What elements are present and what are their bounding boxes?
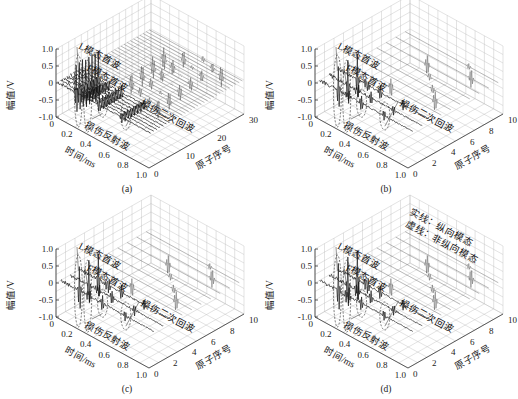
time-tick-label: 0.2 xyxy=(320,329,331,339)
time-tick-label: 0.2 xyxy=(61,129,72,139)
time-tick-label: 0.2 xyxy=(61,329,72,339)
z-tick-label: -0.5 xyxy=(298,95,313,105)
panel-caption: (d) xyxy=(380,384,391,395)
plot-b: 1.00.50-0.5-1.000.20.40.60.81.00246810幅值… xyxy=(259,0,518,199)
element-tick-label: 4 xyxy=(192,347,197,357)
element-axis-label: 原子序号 xyxy=(194,142,234,172)
element-tick-label: 30 xyxy=(249,115,259,125)
element-tick-label: 8 xyxy=(230,326,235,336)
z-tick-label: 0 xyxy=(308,278,313,288)
annotation-f-mode: F模态首波 xyxy=(344,262,389,293)
z-tick-label: -0.5 xyxy=(39,95,54,105)
time-tick-label: 0.4 xyxy=(80,339,92,349)
element-tick-label: 6 xyxy=(470,337,475,347)
z-tick-label: 0.5 xyxy=(301,261,313,271)
z-axis-label: 幅值/V xyxy=(5,80,16,110)
time-tick-label: 0.4 xyxy=(339,339,351,349)
z-axis-label: 幅值/V xyxy=(264,280,275,310)
time-tick-label: 0.2 xyxy=(320,129,331,139)
annotation-damage-echo: 损伤二次回波 xyxy=(139,297,197,335)
element-tick-label: 10 xyxy=(508,115,518,125)
time-tick-label: 0.6 xyxy=(99,350,111,360)
element-tick-label: 2 xyxy=(432,158,437,168)
element-tick-label: 2 xyxy=(173,358,178,368)
element-tick-label: 8 xyxy=(489,126,494,136)
z-tick-label: 1.0 xyxy=(42,44,54,54)
panel-c: 1.00.50-0.5-1.000.20.40.60.81.00246810幅值… xyxy=(0,200,259,399)
z-tick-label: 0.5 xyxy=(42,61,54,71)
z-tick-label: 1.0 xyxy=(301,244,313,254)
element-tick-label: 0 xyxy=(154,169,159,179)
plot-d: 1.00.50-0.5-1.000.20.40.60.81.00246810幅值… xyxy=(259,200,518,399)
time-tick-label: 0.8 xyxy=(376,160,388,170)
element-tick-label: 10 xyxy=(186,151,196,161)
element-axis-label: 原子序号 xyxy=(453,342,493,372)
time-tick-label: 0.6 xyxy=(358,150,370,160)
annotation-damage-echo: 损伤二次回波 xyxy=(139,97,197,135)
element-tick-label: 10 xyxy=(249,315,259,325)
plot-c: 1.00.50-0.5-1.000.20.40.60.81.00246810幅值… xyxy=(0,200,259,399)
z-tick-label: 1.0 xyxy=(301,44,313,54)
element-tick-label: 4 xyxy=(451,147,456,157)
z-tick-label: 0 xyxy=(49,78,54,88)
element-tick-label: 0 xyxy=(154,369,159,379)
time-tick-label: 0.8 xyxy=(117,160,129,170)
element-tick-label: 0 xyxy=(413,169,418,179)
element-axis-label: 原子序号 xyxy=(194,342,234,372)
time-tick-label: 1.0 xyxy=(395,370,407,380)
annotation-damage-echo: 损伤二次回波 xyxy=(398,97,456,135)
z-axis-label: 幅值/V xyxy=(5,280,16,310)
time-tick-label: 0.4 xyxy=(80,139,92,149)
element-axis-label: 原子序号 xyxy=(453,142,493,172)
time-tick-label: 0 xyxy=(50,319,55,329)
element-tick-label: 2 xyxy=(432,358,437,368)
z-tick-label: 0.5 xyxy=(42,261,54,271)
time-tick-label: 0.6 xyxy=(99,150,111,160)
element-tick-label: 0 xyxy=(413,369,418,379)
element-tick-label: 10 xyxy=(508,315,518,325)
z-tick-label: 1.0 xyxy=(42,244,54,254)
time-tick-label: 0 xyxy=(309,319,314,329)
element-tick-label: 6 xyxy=(211,337,216,347)
time-tick-label: 0 xyxy=(50,119,55,129)
plot-a: 1.00.50-0.5-1.000.20.40.60.81.00102030幅值… xyxy=(0,0,259,199)
panel-d: 1.00.50-0.5-1.000.20.40.60.81.00246810幅值… xyxy=(259,200,518,399)
element-tick-label: 4 xyxy=(451,347,456,357)
z-tick-label: -0.5 xyxy=(298,295,313,305)
element-tick-label: 20 xyxy=(217,133,227,143)
time-tick-label: 1.0 xyxy=(395,170,407,180)
time-tick-label: 0.8 xyxy=(117,360,129,370)
panel-b: 1.00.50-0.5-1.000.20.40.60.81.00246810幅值… xyxy=(259,0,518,199)
time-tick-label: 0.6 xyxy=(358,350,370,360)
panel-a: 1.00.50-0.5-1.000.20.40.60.81.00102030幅值… xyxy=(0,0,259,199)
z-tick-label: 0.5 xyxy=(301,61,313,71)
time-tick-label: 0.4 xyxy=(339,139,351,149)
annotation-damage-echo: 损伤二次回波 xyxy=(398,297,456,335)
z-axis-label: 幅值/V xyxy=(264,80,275,110)
time-tick-label: 1.0 xyxy=(136,370,148,380)
time-tick-label: 0 xyxy=(309,119,314,129)
annotation-f-mode: F模态首波 xyxy=(344,62,389,93)
z-tick-label: 0 xyxy=(49,278,54,288)
element-tick-label: 6 xyxy=(470,137,475,147)
panel-caption: (a) xyxy=(122,184,133,195)
z-tick-label: 0 xyxy=(308,78,313,88)
panel-caption: (c) xyxy=(122,384,133,395)
element-tick-label: 8 xyxy=(489,326,494,336)
time-tick-label: 0.8 xyxy=(376,360,388,370)
panel-caption: (b) xyxy=(380,184,391,195)
z-tick-label: -0.5 xyxy=(39,295,54,305)
time-tick-label: 1.0 xyxy=(136,170,148,180)
